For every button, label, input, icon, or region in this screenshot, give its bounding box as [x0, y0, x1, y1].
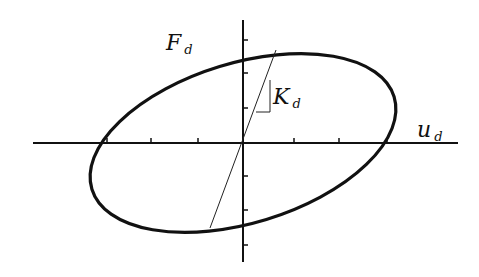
hysteresis-diagram — [0, 0, 479, 277]
displacement-subscript: d — [434, 129, 442, 144]
stiffness-subscript: d — [292, 96, 300, 111]
force-axis-label: Fd — [166, 30, 193, 57]
force-symbol: F — [166, 30, 181, 55]
force-subscript: d — [184, 42, 192, 57]
stiffness-label: Kd — [273, 84, 301, 111]
displacement-symbol: u — [417, 117, 431, 142]
displacement-axis-label: ud — [417, 117, 443, 144]
stiffness-symbol: K — [273, 84, 289, 109]
